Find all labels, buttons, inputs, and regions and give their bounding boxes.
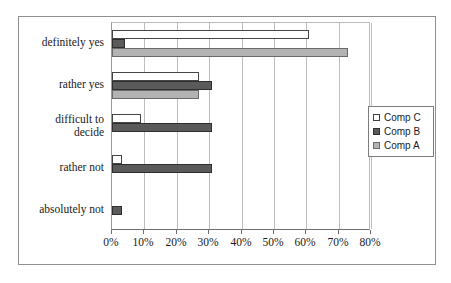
x-axis-tickmark [241, 230, 242, 234]
x-axis-tick-label: 80% [350, 236, 390, 248]
category-axis-label-line: rather not [12, 161, 104, 174]
legend-label: Comp B [384, 126, 420, 137]
bar [112, 72, 199, 81]
x-axis-tickmark [143, 230, 144, 234]
bar [112, 30, 309, 39]
chart-legend: Comp CComp BComp A [368, 106, 434, 157]
plot-area [111, 22, 370, 230]
bar [112, 114, 141, 123]
bar [112, 81, 212, 90]
x-axis-tickmark [370, 230, 371, 234]
legend-label: Comp C [384, 112, 421, 123]
category-axis-label-line: absolutely not [12, 203, 104, 216]
category-axis-label: rather not [12, 161, 104, 174]
category-axis-label-line: definitely yes [12, 36, 104, 49]
legend-entry[interactable]: Comp B [373, 124, 429, 138]
category-axis-label-line: difficult to [12, 113, 104, 126]
legend-swatch-icon [373, 142, 380, 149]
category-axis-label-line: decide [12, 126, 104, 139]
legend-label: Comp A [384, 140, 420, 151]
bar [112, 123, 212, 132]
category-axis-label-line: rather yes [12, 78, 104, 91]
category-axis-label: definitely yes [12, 36, 104, 49]
bar [112, 48, 348, 57]
x-axis-tickmark [305, 230, 306, 234]
legend-swatch-icon [373, 114, 380, 121]
category-axis-label: difficult todecide [12, 113, 104, 139]
x-axis-tickmark [273, 230, 274, 234]
bar [112, 39, 125, 48]
legend-entry[interactable]: Comp A [373, 138, 429, 152]
category-axis-label: rather yes [12, 78, 104, 91]
category-axis-label: absolutely not [12, 203, 104, 216]
bar-chart-figure: 0%10%20%30%40%50%60%70%80% definitely ye… [0, 0, 451, 283]
x-axis-tickmark [208, 230, 209, 234]
legend-entry[interactable]: Comp C [373, 110, 429, 124]
x-axis-tickmark [111, 230, 112, 234]
x-axis-tickmark [176, 230, 177, 234]
bar [112, 155, 122, 164]
bar [112, 90, 199, 99]
x-axis-tickmark [338, 230, 339, 234]
legend-swatch-icon [373, 128, 380, 135]
bar [112, 164, 212, 173]
bar [112, 206, 122, 215]
